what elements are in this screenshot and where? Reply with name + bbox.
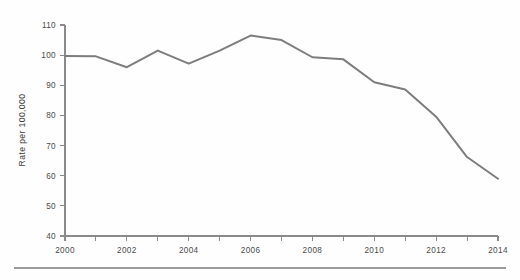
y-axis-label: Rate per 100,000 [17, 94, 27, 167]
y-tick-label: 110 [42, 21, 56, 30]
x-tick-label: 2014 [488, 246, 508, 255]
y-tick-label: 80 [46, 111, 56, 120]
chart-figure: Rate per 100,000 405060708090100110 2000… [0, 0, 520, 280]
y-tick-label: 60 [46, 172, 56, 181]
x-axis-ticks: 20002002200420062008201020122014 [55, 236, 508, 255]
y-tick-label: 100 [41, 51, 56, 60]
y-tick-label: 70 [46, 142, 56, 151]
line-chart: Rate per 100,000 405060708090100110 2000… [0, 0, 520, 280]
x-tick-label: 2008 [303, 246, 323, 255]
y-tick-label: 40 [46, 232, 56, 241]
data-series-line [65, 36, 498, 179]
y-axis-label-group: Rate per 100,000 [17, 94, 27, 167]
y-axis-ticks: 405060708090100110 [41, 21, 65, 241]
x-tick-label: 2012 [426, 246, 446, 255]
x-tick-label: 2002 [117, 246, 137, 255]
y-tick-label: 50 [46, 202, 56, 211]
y-tick-label: 90 [46, 81, 56, 90]
x-tick-label: 2004 [179, 246, 199, 255]
x-tick-label: 2000 [55, 246, 75, 255]
x-tick-label: 2010 [364, 246, 384, 255]
x-tick-label: 2006 [241, 246, 261, 255]
